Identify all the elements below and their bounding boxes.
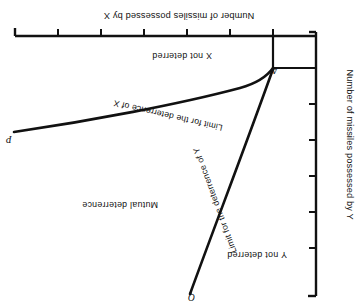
x-axis-title: Number of missiles possessed by X <box>94 11 264 20</box>
point-label-q: Q <box>188 291 195 301</box>
region-label-x-not-deterred: X not deterred <box>122 51 242 60</box>
junction-guides <box>273 36 316 68</box>
x-axis-group <box>15 28 316 36</box>
point-label-a: A <box>272 64 278 74</box>
region-label-y-not-deterred: Y not deterred <box>202 250 312 259</box>
y-axis-title: Number of missiles possessed by Y <box>344 60 353 230</box>
region-label-mutual-deterrence: Mutual deterrence <box>60 200 180 209</box>
point-label-p: P <box>6 133 12 143</box>
limit-x-curve <box>14 68 273 132</box>
